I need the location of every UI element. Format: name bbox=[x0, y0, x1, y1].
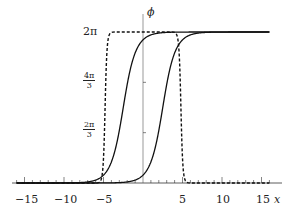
y-tick-label-2pi: 2π bbox=[83, 25, 97, 38]
x-tick-label: 10 bbox=[216, 193, 230, 206]
chart: ϕ 2π 4π 3 2π 3 −15 −10 −5 5 10 15 x bbox=[0, 0, 294, 214]
y-tick-label-2pi3: 2π 3 bbox=[83, 120, 95, 139]
x-tick-label: −15 bbox=[15, 193, 38, 206]
y-tick-label-4pi3: 4π 3 bbox=[83, 71, 95, 90]
x-tick-label: −5 bbox=[96, 193, 112, 206]
x-tick-label: 15 bbox=[256, 193, 270, 206]
x-tick-label: −10 bbox=[54, 193, 77, 206]
y-axis-label: ϕ bbox=[147, 6, 155, 19]
x-axis-label: x bbox=[274, 193, 280, 206]
x-tick-label: 5 bbox=[179, 193, 186, 206]
plot-area bbox=[0, 0, 294, 214]
